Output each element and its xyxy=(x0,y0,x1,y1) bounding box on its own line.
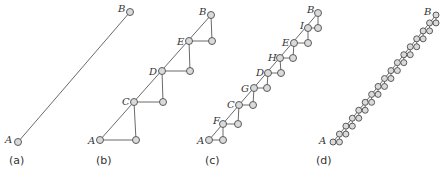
corner-node xyxy=(220,137,227,144)
corner-node xyxy=(375,91,381,97)
path-node xyxy=(291,40,298,47)
corner-node xyxy=(315,25,322,32)
path-node xyxy=(427,20,433,26)
path-node xyxy=(336,131,342,137)
panel-caption: (a) xyxy=(9,154,24,167)
path-node xyxy=(414,36,420,42)
point-label-f: F xyxy=(212,115,221,126)
panel-a: AB(a) xyxy=(4,3,134,167)
segment-ab xyxy=(100,15,211,140)
corner-node xyxy=(349,123,355,129)
corner-node xyxy=(414,44,420,50)
vertical-leg xyxy=(189,41,190,71)
corner-node xyxy=(401,60,407,66)
corner-node xyxy=(420,36,426,42)
corner-node xyxy=(290,55,297,62)
path-node xyxy=(277,55,284,62)
path-node xyxy=(251,85,258,92)
path-node xyxy=(362,99,368,105)
point-label-d: D xyxy=(255,67,264,78)
corner-node xyxy=(160,99,167,106)
node-a xyxy=(15,139,22,146)
path-node xyxy=(420,28,426,34)
point-label-b: B xyxy=(423,6,431,17)
point-label-a: A xyxy=(4,134,12,145)
point-label-a: A xyxy=(196,135,204,146)
path-node xyxy=(382,76,388,82)
path-node xyxy=(206,137,213,144)
corner-node xyxy=(388,76,394,82)
point-label-e: E xyxy=(176,36,185,47)
path-node xyxy=(343,123,349,129)
path-node xyxy=(208,12,215,19)
path-node xyxy=(330,139,336,145)
corner-node xyxy=(427,28,433,34)
corner-node xyxy=(433,20,439,26)
corner-node xyxy=(235,121,242,128)
path-node xyxy=(265,70,272,77)
panel-caption: (d) xyxy=(316,154,332,167)
path-node xyxy=(305,25,312,32)
corner-node xyxy=(187,68,194,75)
corner-node xyxy=(407,52,413,58)
point-label-h: H xyxy=(267,52,277,63)
corner-node xyxy=(305,40,312,47)
vertical-leg xyxy=(134,102,136,140)
panel-caption: (c) xyxy=(205,154,220,167)
path-node xyxy=(369,91,375,97)
path-node xyxy=(236,102,243,109)
corner-node xyxy=(362,107,368,113)
point-label-c: C xyxy=(227,99,235,110)
point-label-b: B xyxy=(117,3,125,14)
point-label-b: B xyxy=(306,4,314,15)
corner-node xyxy=(369,99,375,105)
point-label-g: G xyxy=(241,83,249,94)
path-node xyxy=(186,38,193,45)
corner-node xyxy=(250,102,257,109)
path-node xyxy=(388,68,394,74)
corner-node xyxy=(133,137,140,144)
segment-ab xyxy=(18,12,130,142)
path-node xyxy=(315,10,322,17)
path-node xyxy=(433,12,439,18)
point-label-a: A xyxy=(87,135,95,146)
corner-node xyxy=(278,70,285,77)
node-b xyxy=(127,9,134,16)
corner-node xyxy=(264,85,271,92)
path-node xyxy=(401,52,407,58)
panel-caption: (b) xyxy=(96,154,112,167)
corner-node xyxy=(382,83,388,89)
path-node xyxy=(97,137,104,144)
corner-node xyxy=(209,38,216,45)
panel-c: AFCGDHEIB(c) xyxy=(196,4,322,167)
corner-node xyxy=(356,115,362,121)
path-node xyxy=(375,83,381,89)
point-label-a: A xyxy=(318,135,326,146)
vertical-leg xyxy=(162,71,163,102)
path-node xyxy=(131,99,138,106)
point-label-b: B xyxy=(198,6,206,17)
point-label-c: C xyxy=(122,96,130,107)
point-label-d: D xyxy=(148,66,157,77)
point-label-e: E xyxy=(281,37,290,48)
path-node xyxy=(349,115,355,121)
corner-node xyxy=(336,139,342,145)
corner-node xyxy=(343,131,349,137)
path-node xyxy=(407,44,413,50)
staircase-approximation-diagram: AB(a) ACDEB(b) AFCGDHEIB(c) AB(d) xyxy=(0,0,445,175)
path-node xyxy=(159,68,166,75)
panel-d: AB(d) xyxy=(316,6,439,167)
path-node xyxy=(220,121,227,128)
path-node xyxy=(356,107,362,113)
path-node xyxy=(394,60,400,66)
corner-node xyxy=(394,68,400,74)
